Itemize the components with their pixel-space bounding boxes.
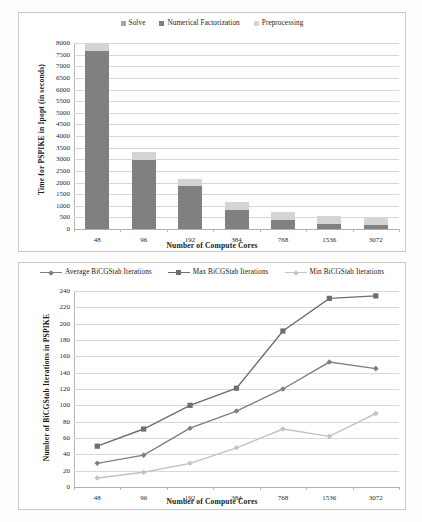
x-axis-tick [167, 487, 168, 490]
data-point-marker[interactable] [187, 403, 192, 408]
bar-chart-legend: Solve Numerical Factorization Preprocess… [19, 20, 405, 27]
legend-marker-average-bicgstab [40, 269, 62, 276]
y-axis-tick-label: 8000 [56, 39, 70, 47]
bar-segment[interactable] [317, 224, 341, 229]
bar-stack[interactable] [317, 43, 341, 229]
x-axis-tick [167, 229, 168, 232]
data-point-marker[interactable] [373, 293, 378, 298]
data-point-marker[interactable] [234, 386, 239, 391]
data-point-marker[interactable] [280, 426, 286, 432]
bar-stack[interactable] [132, 43, 156, 229]
line-chart-plot-area: 0204060801001201401601802002202404896192… [74, 291, 399, 487]
bar-segment[interactable] [132, 152, 156, 160]
bar-stack[interactable] [178, 43, 202, 229]
bar-segment[interactable] [225, 210, 249, 229]
y-axis-tick-label: 40 [63, 450, 70, 458]
bar-segment[interactable] [271, 212, 295, 220]
bar-segment[interactable] [225, 202, 249, 210]
legend-label-average-bicgstab: Average BiCGStab Iterations [65, 269, 152, 276]
legend-entry-min-bicgstab[interactable]: Min BiCGStab Iterations [285, 269, 385, 276]
data-point-marker[interactable] [94, 461, 100, 467]
legend-entry-max-bicgstab[interactable]: Max BiCGStab Iterations [168, 269, 269, 276]
y-axis-tick-label: 140 [60, 369, 71, 377]
y-axis-tick-label: 240 [60, 287, 71, 295]
data-point-marker[interactable] [95, 444, 100, 449]
bar-stack[interactable] [271, 43, 295, 229]
y-axis-tick-label: 20 [63, 467, 70, 475]
data-point-marker[interactable] [327, 296, 332, 301]
figure-page: Solve Numerical Factorization Preprocess… [0, 0, 422, 522]
legend-entry-preprocessing[interactable]: Preprocessing [254, 20, 304, 27]
y-axis-tick-label: 1500 [56, 190, 70, 198]
y-axis-tick-label: 500 [60, 213, 71, 221]
data-point-marker[interactable] [280, 328, 285, 333]
bar-chart-panel: Solve Numerical Factorization Preprocess… [18, 12, 406, 252]
legend-marker-min-bicgstab [285, 269, 307, 276]
y-axis-tick-label: 3500 [56, 144, 70, 152]
gridline [74, 487, 399, 488]
x-axis-tick [213, 229, 214, 232]
x-axis-tick [399, 229, 400, 232]
line-chart-y-axis-title: Number of BiCGStab Iterations in PSPIKE [42, 303, 51, 473]
x-axis-tick [120, 487, 121, 490]
bar-segment[interactable] [364, 218, 388, 225]
bar-stack[interactable] [85, 43, 109, 229]
data-point-marker[interactable] [327, 359, 333, 365]
legend-label-min-bicgstab: Min BiCGStab Iterations [310, 269, 385, 276]
legend-entry-numerical-factorization[interactable]: Numerical Factorization [159, 20, 239, 27]
bar-segment[interactable] [85, 43, 109, 51]
bar-segment[interactable] [132, 160, 156, 229]
x-axis-tick [74, 487, 75, 490]
legend-label-preprocessing: Preprocessing [262, 20, 304, 27]
legend-swatch-numerical-factorization [159, 21, 164, 26]
y-axis-tick-label: 160 [60, 352, 71, 360]
y-axis-tick-label: 0 [67, 225, 71, 233]
data-point-marker[interactable] [141, 426, 146, 431]
bar-segment[interactable] [317, 216, 341, 224]
y-axis-tick-label: 1000 [56, 202, 70, 210]
y-axis-tick-label: 4000 [56, 132, 70, 140]
y-axis-tick-label: 0 [67, 483, 71, 491]
data-point-marker[interactable] [280, 386, 286, 392]
data-point-marker[interactable] [141, 470, 147, 476]
bar-segment[interactable] [271, 220, 295, 229]
data-point-marker[interactable] [234, 408, 240, 414]
data-point-marker[interactable] [94, 475, 100, 481]
x-axis-tick [213, 487, 214, 490]
data-point-marker[interactable] [373, 411, 379, 417]
y-axis-tick-label: 120 [60, 385, 71, 393]
data-point-marker[interactable] [327, 434, 333, 440]
legend-label-solve: Solve [129, 20, 146, 27]
data-point-marker[interactable] [234, 445, 240, 451]
legend-entry-average-bicgstab[interactable]: Average BiCGStab Iterations [40, 269, 152, 276]
bar-stack[interactable] [364, 43, 388, 229]
bar-segment[interactable] [85, 51, 109, 229]
x-axis-tick [120, 229, 121, 232]
x-axis-tick [353, 487, 354, 490]
data-point-marker[interactable] [187, 425, 193, 431]
data-point-marker[interactable] [373, 366, 379, 372]
x-axis-tick [306, 487, 307, 490]
y-axis-tick-label: 180 [60, 336, 71, 344]
y-axis-tick-label: 7500 [56, 51, 70, 59]
bar-segment[interactable] [178, 179, 202, 186]
bar-chart-y-axis-title: Time for PSPIKE in Ipopt (in seconds) [37, 50, 46, 210]
y-axis-tick-label: 220 [60, 303, 71, 311]
y-axis-tick-label: 7000 [56, 62, 70, 70]
bar-stack[interactable] [225, 43, 249, 229]
bar-chart-plot-area: 0500100015002000250030003500400045005000… [74, 43, 399, 229]
y-axis-tick-label: 5000 [56, 109, 70, 117]
bar-segment[interactable] [178, 186, 202, 229]
y-axis-tick-label: 6500 [56, 74, 70, 82]
legend-label-max-bicgstab: Max BiCGStab Iterations [193, 269, 269, 276]
y-axis-tick-label: 4500 [56, 120, 70, 128]
x-axis-tick [260, 229, 261, 232]
x-axis-tick [399, 487, 400, 490]
data-point-marker[interactable] [141, 452, 147, 458]
y-axis-tick-label: 100 [60, 401, 71, 409]
line-series[interactable] [97, 296, 376, 446]
legend-swatch-solve [121, 21, 126, 26]
data-point-marker[interactable] [187, 461, 193, 467]
bar-segment[interactable] [364, 225, 388, 229]
legend-entry-solve[interactable]: Solve [121, 20, 146, 27]
